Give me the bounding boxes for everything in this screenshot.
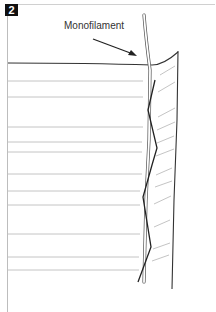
monofilament-strand	[144, 15, 150, 282]
pad-outline	[8, 51, 178, 289]
pad-side-hatching	[152, 66, 175, 261]
callout-arrow-icon	[93, 39, 137, 56]
notepad-illustration	[0, 0, 216, 312]
zigzag-filament	[138, 80, 157, 282]
ruled-lines	[8, 81, 143, 270]
